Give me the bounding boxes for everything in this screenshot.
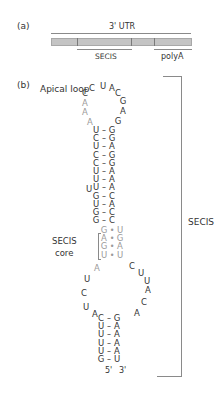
- secis-bracket: [181, 76, 182, 377]
- polya-label: polyA: [161, 52, 183, 61]
- nucleotide: C: [80, 289, 88, 298]
- nucleotide: U: [99, 82, 107, 91]
- nucleotide: U: [82, 303, 90, 312]
- secis-core-label-line1: SECIS: [52, 236, 77, 246]
- nucleotide: G: [119, 97, 127, 106]
- nucleotide: C: [88, 84, 96, 93]
- bar-separator: [77, 38, 78, 46]
- five-prime-label: 5': [105, 366, 112, 375]
- pair-right-nucleotide: U: [113, 355, 121, 364]
- secis-bracket-bottom-tick: [157, 376, 182, 377]
- nucleotide: A: [81, 108, 89, 117]
- base-pair-bond: –: [105, 355, 113, 364]
- pair-right-nucleotide: C: [108, 216, 116, 225]
- secis-label-b: SECIS: [188, 217, 214, 227]
- pair-left-nucleotide: G: [97, 355, 105, 364]
- nucleotide: A: [144, 286, 152, 295]
- utr-label: 3' UTR: [109, 22, 135, 31]
- pair-right-nucleotide: U: [116, 251, 124, 260]
- pair-left-nucleotide: G: [92, 216, 100, 225]
- bulge-nucleotide: U: [85, 185, 93, 194]
- nucleotide: C: [140, 298, 148, 307]
- nucleotide: G: [114, 117, 122, 126]
- pair-left-nucleotide: U: [100, 251, 108, 260]
- base-pair-bond: –: [100, 216, 108, 225]
- nucleotide: C: [128, 262, 136, 271]
- bar-separator: [154, 38, 155, 46]
- polya-line: [154, 49, 192, 50]
- core-bracket-tick: [98, 233, 101, 234]
- mrna-bar: [51, 38, 192, 46]
- nucleotide: A: [93, 264, 101, 273]
- panel-a-label: (a): [17, 21, 30, 31]
- three-prime-label: 3': [119, 366, 126, 375]
- bar-separator: [131, 38, 132, 46]
- secis-line: [77, 49, 132, 50]
- panel-b-label: (b): [17, 80, 30, 90]
- base-pair-bond: •: [108, 251, 116, 260]
- nucleotide: A: [133, 309, 141, 318]
- secis-core-label-line2: core: [55, 248, 73, 258]
- secis-label-a: SECIS: [95, 52, 117, 61]
- nucleotide: U: [83, 275, 91, 284]
- core-bracket: [98, 233, 99, 260]
- utr-line: [51, 33, 191, 34]
- secis-bracket-top-tick: [163, 76, 182, 77]
- core-bracket-tick: [98, 259, 101, 260]
- nucleotide: A: [119, 107, 127, 116]
